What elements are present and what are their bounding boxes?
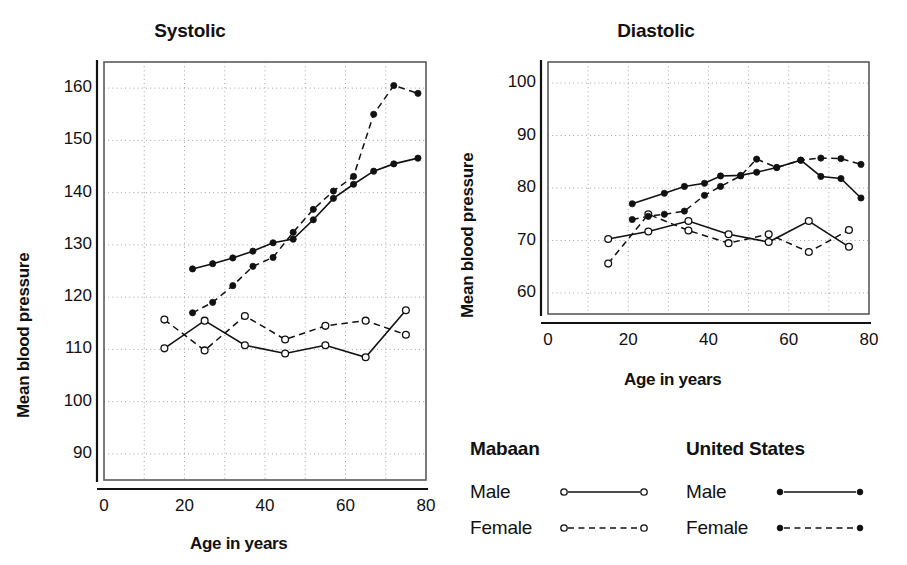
legend-row-us-male: Male (686, 474, 896, 510)
series-line-mabaan-female (164, 316, 406, 350)
data-point (717, 173, 723, 179)
legend-row-us-female: Female (686, 510, 896, 546)
data-point (230, 283, 236, 289)
data-point (681, 183, 687, 189)
x-tick-label: 80 (844, 330, 894, 350)
data-point (241, 313, 248, 320)
systolic-panel: Systolic Mean blood pressure Age in year… (0, 18, 440, 548)
data-point (161, 345, 168, 352)
legend-label-us-female: Female (686, 517, 772, 539)
data-point (210, 299, 216, 305)
data-point (858, 195, 864, 201)
legend-label-us-male: Male (686, 481, 772, 503)
data-point (701, 180, 707, 186)
data-point (250, 248, 256, 254)
data-point (230, 255, 236, 261)
y-tick-label: 70 (492, 230, 536, 250)
x-tick-label: 80 (401, 496, 451, 516)
data-point (330, 188, 336, 194)
data-point (282, 350, 289, 357)
legend-marker (857, 489, 863, 495)
legend-sample-mabaan-male (556, 482, 652, 502)
legend-marker (641, 525, 647, 531)
data-point (290, 236, 296, 242)
data-point (805, 218, 812, 225)
data-point (210, 261, 216, 267)
data-point (201, 317, 208, 324)
data-point (201, 347, 208, 354)
data-point (189, 310, 195, 316)
data-point (838, 156, 844, 162)
data-point (189, 266, 195, 272)
data-point (725, 231, 732, 238)
data-point (415, 90, 421, 96)
y-tick-label: 110 (48, 338, 92, 358)
data-point (629, 216, 635, 222)
legend-marker (561, 525, 567, 531)
data-point (725, 240, 732, 247)
diastolic-panel: Diastolic Mean blood pressure Age in yea… (448, 18, 907, 398)
legend-group-mabaan: Mabaan Male Female (470, 438, 680, 546)
legend-row-mabaan-male: Male (470, 474, 680, 510)
blood-pressure-figure: Systolic Mean blood pressure Age in year… (0, 0, 907, 565)
data-point (161, 316, 168, 323)
data-point (362, 354, 369, 361)
y-tick-label: 100 (48, 391, 92, 411)
data-point (371, 168, 377, 174)
y-tick-label: 100 (492, 72, 536, 92)
data-point (282, 336, 289, 343)
data-point (754, 156, 760, 162)
data-point (350, 181, 356, 187)
legend-label-mabaan-female: Female (470, 517, 556, 539)
y-tick-label: 140 (48, 182, 92, 202)
x-tick-label: 40 (240, 496, 290, 516)
data-point (350, 173, 356, 179)
data-point (270, 254, 276, 260)
y-tick-label: 90 (492, 125, 536, 145)
y-tick-label: 160 (48, 77, 92, 97)
series-line-mabaan-female (608, 214, 849, 263)
legend-group-united-states: United States Male Female (686, 438, 896, 546)
x-tick-label: 60 (321, 496, 371, 516)
data-point (402, 331, 409, 338)
legend-marker (777, 525, 783, 531)
systolic-plot (0, 18, 440, 548)
data-point (754, 169, 760, 175)
series-line-united-states-female (632, 158, 861, 219)
data-point (717, 183, 723, 189)
legend-marker (561, 489, 567, 495)
legend-marker (857, 525, 863, 531)
data-point (738, 173, 744, 179)
data-point (645, 228, 652, 235)
data-point (765, 231, 772, 238)
legend-sample-mabaan-female (556, 518, 652, 538)
data-point (805, 249, 812, 256)
x-tick-label: 40 (684, 330, 734, 350)
data-point (605, 260, 612, 267)
data-point (681, 208, 687, 214)
data-point (774, 164, 780, 170)
legend-heading-united-states: United States (686, 438, 896, 460)
data-point (818, 155, 824, 161)
y-tick-label: 120 (48, 286, 92, 306)
legend-marker (641, 489, 647, 495)
x-tick-label: 0 (523, 330, 573, 350)
data-point (645, 213, 651, 219)
x-tick-label: 20 (603, 330, 653, 350)
plot-frame (104, 62, 426, 480)
data-point (846, 227, 853, 234)
data-point (391, 82, 397, 88)
series-line-united-states-male (632, 160, 861, 204)
data-point (701, 192, 707, 198)
data-point (765, 239, 772, 246)
legend-sample-us-female (772, 518, 868, 538)
series-line-united-states-female (193, 86, 418, 313)
data-point (241, 342, 248, 349)
data-point (661, 190, 667, 196)
data-point (330, 195, 336, 201)
data-point (322, 322, 329, 329)
x-tick-label: 0 (79, 496, 129, 516)
data-point (605, 236, 612, 243)
legend-row-mabaan-female: Female (470, 510, 680, 546)
legend-sample-us-male (772, 482, 868, 502)
